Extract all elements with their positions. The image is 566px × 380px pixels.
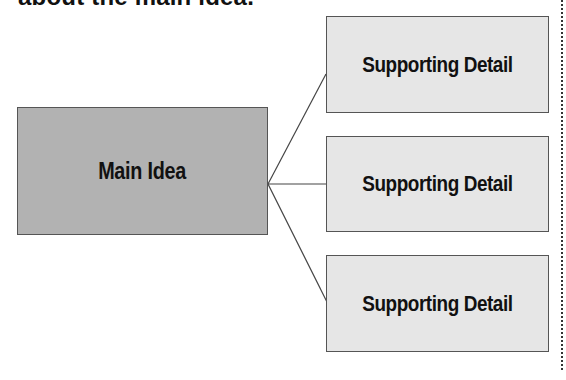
main-idea-box: Main Idea: [17, 107, 268, 235]
main-idea-label: Main Idea: [99, 158, 187, 185]
supporting-detail-box-1: Supporting Detail: [326, 16, 549, 113]
supporting-detail-label: Supporting Detail: [362, 291, 512, 317]
supporting-detail-label: Supporting Detail: [362, 171, 512, 197]
supporting-detail-box-2: Supporting Detail: [326, 136, 549, 232]
supporting-detail-box-3: Supporting Detail: [326, 255, 549, 352]
supporting-detail-label: Supporting Detail: [362, 52, 512, 78]
dotted-divider-line: [561, 0, 563, 370]
connector-to-detail-1: [268, 74, 326, 184]
connector-to-detail-3: [268, 184, 327, 302]
clipped-heading-text: about the main idea.: [18, 0, 254, 11]
